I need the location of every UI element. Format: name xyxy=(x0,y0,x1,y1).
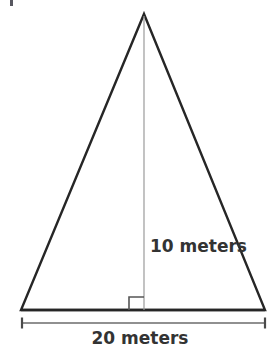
triangle-outline xyxy=(21,14,265,310)
triangle-diagram-canvas xyxy=(0,0,280,352)
height-dimension-label: 10 meters xyxy=(150,238,247,255)
base-dimension-label: 20 meters xyxy=(0,330,280,347)
triangle-figure: 10 meters 20 meters xyxy=(0,0,280,352)
